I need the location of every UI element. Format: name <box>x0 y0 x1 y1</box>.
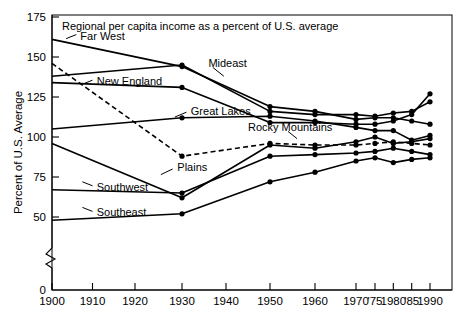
series-point-plains <box>372 134 377 139</box>
series-point-mideast <box>372 114 377 119</box>
series-point-southeast <box>427 155 432 160</box>
series-label-leader <box>161 169 173 175</box>
series-label-leader <box>82 207 92 211</box>
series-label-leader <box>66 35 76 39</box>
series-label-rocky-mountains: Rocky Mountains <box>248 121 333 133</box>
series-point-far-west <box>267 104 272 109</box>
series-point-far-west <box>409 118 414 123</box>
series-point-great-lakes <box>179 115 184 120</box>
x-axis-tick-label: 1900 <box>39 295 65 307</box>
series-point-new-england <box>372 122 377 127</box>
series-point-mideast <box>353 112 358 117</box>
series-point-mideast <box>427 99 432 104</box>
series-point-great-lakes <box>353 125 358 130</box>
y-axis-tick-label: 75 <box>33 171 46 183</box>
chart-canvas: 05075100125150175Percent of U.S. Average… <box>0 0 468 321</box>
series-point-new-england <box>391 118 396 123</box>
series-point-plains <box>179 195 184 200</box>
x-axis-tick-label: 1970 <box>343 295 369 307</box>
series-label-plains: Plains <box>177 161 207 173</box>
series-point-southeast <box>312 170 317 175</box>
series-point-plains <box>353 139 358 144</box>
x-axis-tick-label: 1920 <box>122 295 148 307</box>
series-label-great-lakes: Great Lakes <box>191 105 251 117</box>
series-point-great-lakes <box>391 128 396 133</box>
y-axis-tick-label: 175 <box>27 11 46 23</box>
series-point-great-lakes <box>372 128 377 133</box>
y-axis-tick-label: 100 <box>27 131 46 143</box>
series-point-southeast <box>391 160 396 165</box>
series-point-plains <box>312 146 317 151</box>
series-point-mideast <box>267 109 272 114</box>
y-axis-tick-label: 125 <box>27 91 46 103</box>
series-point-new-england <box>179 85 184 90</box>
series-point-southwest <box>267 154 272 159</box>
series-label-leader <box>84 80 92 83</box>
series-point-southwest <box>372 149 377 154</box>
series-label-far-west: Far West <box>80 30 124 42</box>
x-axis-tick-label: 1950 <box>257 295 283 307</box>
x-axis-tick-label: 1960 <box>302 295 328 307</box>
series-point-southwest <box>409 149 414 154</box>
series-label-leader <box>82 182 92 186</box>
series-point-southeast <box>372 155 377 160</box>
x-axis-tick-label: 1940 <box>213 295 239 307</box>
series-point-plains <box>427 136 432 141</box>
series-point-southwest <box>312 152 317 157</box>
plot-frame <box>52 15 452 290</box>
y-axis-break-symbol <box>46 248 55 268</box>
series-point-rocky-mountains <box>179 154 184 159</box>
x-axis-tick-label: 1990 <box>417 295 443 307</box>
series-label-mideast: Mideast <box>208 57 247 69</box>
series-point-far-west <box>427 122 432 127</box>
series-point-plains <box>409 139 414 144</box>
series-point-rocky-mountains <box>427 142 432 147</box>
series-label-new-england: New England <box>97 75 162 87</box>
series-point-mideast <box>179 62 184 67</box>
series-point-southeast <box>267 179 272 184</box>
series-point-mideast <box>312 112 317 117</box>
series-point-far-west <box>353 117 358 122</box>
series-point-plains <box>267 142 272 147</box>
x-axis-tick-label: 1910 <box>80 295 106 307</box>
series-point-southeast <box>409 157 414 162</box>
series-point-great-lakes <box>267 114 272 119</box>
series-point-southeast <box>179 211 184 216</box>
series-point-rocky-mountains <box>372 141 377 146</box>
series-point-new-england <box>409 112 414 117</box>
series-point-southwest <box>391 146 396 151</box>
y-axis-tick-label: 150 <box>27 51 46 63</box>
series-point-mideast <box>391 110 396 115</box>
series-point-southwest <box>353 150 358 155</box>
series-label-southeast: Southeast <box>97 206 147 218</box>
x-axis-tick-label: 1980 <box>381 295 407 307</box>
regional-income-chart: 05075100125150175Percent of U.S. Average… <box>0 0 468 321</box>
y-axis-title: Percent of U.S. Average <box>12 91 24 214</box>
series-point-southwest <box>179 190 184 195</box>
series-point-new-england <box>427 91 432 96</box>
y-axis-tick-label: 50 <box>33 211 46 223</box>
x-axis-tick-label: 1930 <box>169 295 195 307</box>
series-point-plains <box>391 141 396 146</box>
series-point-southeast <box>353 158 358 163</box>
series-label-southwest: Southwest <box>97 181 148 193</box>
